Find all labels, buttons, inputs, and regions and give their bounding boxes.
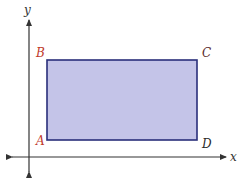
y-axis-label: y (23, 3, 31, 17)
vertex-label-b: B (35, 46, 45, 60)
vertex-label-c: C (202, 46, 211, 60)
vertex-label-d: D (201, 137, 212, 151)
coordinate-diagram: y x B C A D (0, 0, 247, 180)
x-axis-label: x (230, 150, 237, 164)
rectangle-abcd (47, 60, 197, 140)
vertex-label-a: A (35, 134, 45, 148)
